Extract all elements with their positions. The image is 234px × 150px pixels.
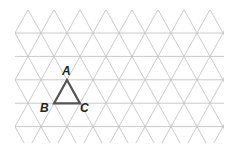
grid-line <box>0 10 2 143</box>
vertex-label-b: B <box>40 101 49 115</box>
grid-line <box>0 10 24 143</box>
triangle-abc <box>54 80 80 103</box>
triangle-abc-outline <box>54 80 80 103</box>
grid-line <box>0 10 54 143</box>
grid-line <box>184 10 234 143</box>
grid-line <box>214 10 234 143</box>
grid-line <box>0 10 28 143</box>
vertex-label-a: A <box>61 64 71 78</box>
triangular-grid-diagram: A B C <box>0 0 234 150</box>
isometric-grid <box>0 10 234 143</box>
grid-line <box>210 10 234 143</box>
vertex-label-c: C <box>80 101 89 115</box>
